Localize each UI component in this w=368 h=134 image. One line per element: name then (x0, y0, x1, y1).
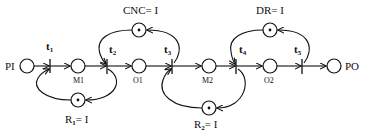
token-icon (77, 99, 80, 102)
label-R2: R2= I (194, 118, 218, 132)
place-M1 (71, 59, 85, 73)
label-O2: O2 (264, 76, 274, 85)
place-O2 (263, 59, 277, 73)
labels: PI M1 O1 M2 O2 PO CNC= I DR= I R1= I R2=… (5, 4, 359, 132)
label-t5: t5 (294, 43, 302, 57)
label-M2: M2 (202, 76, 213, 85)
places (20, 23, 341, 115)
label-PO: PO (345, 60, 359, 72)
place-M2 (202, 59, 216, 73)
label-t3: t3 (164, 43, 172, 57)
label-R1: R1= I (65, 113, 89, 127)
token-icon (208, 107, 211, 110)
label-DR: DR= I (256, 4, 284, 16)
place-O1 (132, 59, 146, 73)
label-CNC: CNC= I (123, 4, 159, 16)
place-PI (20, 59, 34, 73)
label-t1: t1 (46, 40, 54, 54)
label-M1: M1 (73, 76, 84, 85)
label-t4: t4 (239, 43, 247, 57)
token-icon (138, 29, 141, 32)
label-O1: O1 (133, 76, 143, 85)
token-icon (269, 29, 272, 32)
petri-net-diagram: PI M1 O1 M2 O2 PO CNC= I DR= I R1= I R2=… (0, 0, 368, 134)
label-PI: PI (5, 60, 15, 72)
tokens (77, 29, 272, 110)
label-t2: t2 (109, 43, 117, 57)
place-PO (327, 59, 341, 73)
